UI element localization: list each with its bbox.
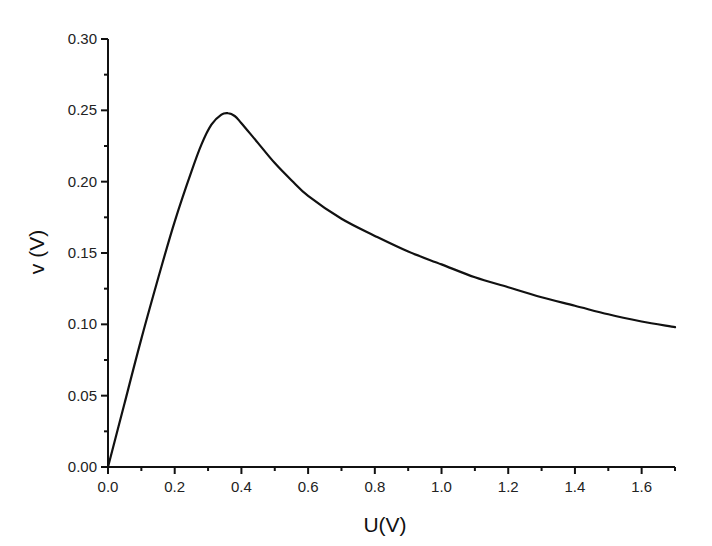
x-tick-label: 1.4 <box>565 478 586 495</box>
y-tick-label: 0.20 <box>68 173 97 190</box>
x-tick-label: 0.4 <box>231 478 252 495</box>
y-tick-label: 0.25 <box>68 101 97 118</box>
line-chart: 0.000.050.100.150.200.250.30 0.00.20.40.… <box>0 0 712 546</box>
x-tick-label: 0.6 <box>298 478 319 495</box>
x-tick-label: 0.0 <box>98 478 119 495</box>
y-tick-label: 0.30 <box>68 30 97 47</box>
x-axis: 0.00.20.40.60.81.01.21.41.6 <box>98 467 675 495</box>
x-tick-label: 1.2 <box>498 478 519 495</box>
y-tick-label: 0.10 <box>68 315 97 332</box>
y-axis-label: v (V) <box>25 230 48 274</box>
y-tick-label: 0.05 <box>68 387 97 404</box>
y-tick-label: 0.15 <box>68 244 97 261</box>
x-tick-label: 0.2 <box>164 478 185 495</box>
x-tick-label: 1.0 <box>431 478 452 495</box>
y-axis: 0.000.050.100.150.200.250.30 <box>68 30 108 475</box>
x-tick-label: 1.6 <box>631 478 652 495</box>
y-tick-label: 0.00 <box>68 458 97 475</box>
data-line <box>108 113 675 467</box>
x-tick-label: 0.8 <box>364 478 385 495</box>
x-axis-label: U(V) <box>363 513 406 536</box>
